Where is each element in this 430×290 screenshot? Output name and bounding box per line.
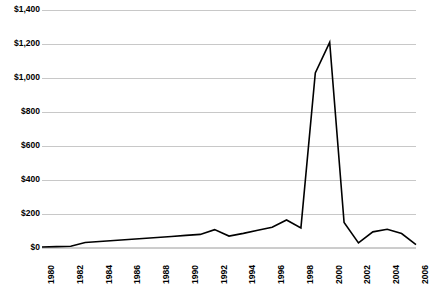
x-tick-label: 2000 bbox=[334, 265, 344, 284]
x-tick-label: 1992 bbox=[219, 265, 229, 284]
x-tick-label: 2006 bbox=[420, 265, 430, 284]
x-tick-label: 1988 bbox=[161, 265, 171, 284]
x-tick-label: 1984 bbox=[104, 265, 114, 284]
x-tick-label: 1986 bbox=[132, 265, 142, 284]
x-tick-label: 1998 bbox=[305, 265, 315, 284]
x-tick-label: 1996 bbox=[276, 265, 286, 284]
x-tick-label: 1990 bbox=[190, 265, 200, 284]
x-tick-label: 1994 bbox=[247, 265, 257, 284]
x-tick-label: 2002 bbox=[362, 265, 372, 284]
x-tick-label: 1982 bbox=[75, 265, 85, 284]
x-tick-label: 1980 bbox=[46, 265, 56, 284]
x-tick-label: 2004 bbox=[391, 265, 401, 284]
